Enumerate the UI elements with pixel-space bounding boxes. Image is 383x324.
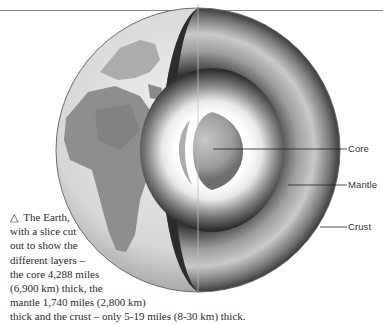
caption-line: mantle 1,740 miles (2,800 km) [10, 295, 370, 309]
figure-caption: △ The Earth, with a slice cut out to sho… [10, 210, 370, 324]
caption-line: out to show the [10, 238, 370, 252]
caption-line: thick and the crust – only 5-19 miles (8… [10, 309, 370, 323]
caption-line: different layers – [10, 253, 370, 267]
mantle-label: Mantle [348, 179, 377, 190]
core-label: Core [348, 143, 369, 154]
caption-line: (6,900 km) thick, the [10, 281, 370, 295]
caption-line: △ The Earth, [10, 210, 370, 224]
triangle-marker-icon: △ [10, 211, 18, 223]
caption-line: with a slice cut [10, 224, 370, 238]
caption-line: the core 4,288 miles [10, 267, 370, 281]
